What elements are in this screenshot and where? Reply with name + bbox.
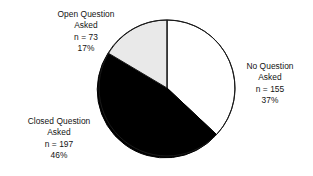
pie-label-open-question-line2: Asked [38,20,134,31]
pie-label-open-question: Open Question Asked n = 73 17% [38,9,134,55]
pie-label-open-question-count: n = 73 [38,32,134,43]
pie-chart-figure: Open Question Asked n = 73 17% No Questi… [0,0,313,176]
pie-label-open-question-line1: Open Question [38,9,134,20]
pie-label-no-question-count: n = 155 [228,84,312,95]
pie-label-no-question-line1: No Question [228,61,312,72]
pie-label-no-question: No Question Asked n = 155 37% [228,61,312,107]
pie-label-closed-question-line2: Asked [4,127,114,138]
pie-label-no-question-line2: Asked [228,72,312,83]
pie-label-closed-question-count: n = 197 [4,139,114,150]
pie-label-closed-question-percent: 46% [4,150,114,161]
pie-label-closed-question: Closed Question Asked n = 197 46% [4,116,114,162]
pie-label-closed-question-line1: Closed Question [4,116,114,127]
pie-label-open-question-percent: 17% [38,43,134,54]
pie-label-no-question-percent: 37% [228,95,312,106]
